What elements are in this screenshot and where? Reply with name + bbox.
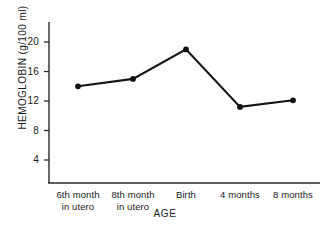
y-tick-label-4: 4	[13, 154, 39, 165]
y-tick-label-20: 20	[13, 36, 39, 47]
y-tick-label-12: 12	[13, 95, 39, 106]
data-point-8th-month-in-utero	[130, 76, 136, 82]
x-tick-line1: 8 months	[259, 189, 327, 201]
x-axis-label: AGE	[0, 208, 330, 219]
y-tick-label-16: 16	[13, 66, 39, 77]
x-tick-label-8-months: 8 months	[259, 189, 327, 201]
hemoglobin-series-line	[78, 49, 293, 107]
hemoglobin-vs-age-chart: HEMOGLOBIN (g/100 ml) 20 16 12 8 4 6th m…	[0, 0, 330, 236]
data-point-birth	[183, 47, 189, 53]
data-point-8-months	[290, 97, 296, 103]
data-point-4-months	[237, 104, 243, 110]
data-point-6th-month-in-utero	[75, 83, 81, 89]
y-tick-label-8: 8	[13, 125, 39, 136]
